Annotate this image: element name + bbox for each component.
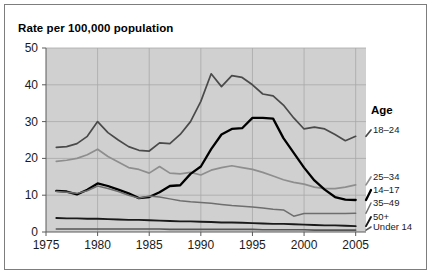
y-axis-tick-label: 50	[12, 41, 38, 55]
x-axis-tick-label: 1990	[176, 238, 226, 252]
legend-leader-25-34	[366, 177, 371, 185]
legend-leader-35-49	[366, 203, 371, 213]
y-axis-tick-label: 0	[12, 225, 38, 239]
legend-leader-18-24	[366, 130, 371, 136]
y-axis-tick-label: 40	[12, 78, 38, 92]
legend-item-18-24: 18–24	[373, 124, 399, 135]
y-axis-tick-label: 20	[12, 151, 38, 165]
x-axis-tick-label: 1980	[73, 238, 123, 252]
legend-leader-under-14	[366, 227, 371, 230]
legend-title: Age	[371, 104, 393, 116]
legend-item-14-17: 14–17	[373, 184, 399, 195]
line-chart-plot	[0, 0, 431, 274]
x-axis-tick-label: 1995	[227, 238, 277, 252]
legend-item-35-49: 35–49	[373, 197, 399, 208]
y-axis-tick-label: 10	[12, 188, 38, 202]
legend-leader-14-17	[366, 190, 371, 200]
x-axis-tick-label: 1975	[21, 238, 71, 252]
legend-item-under-14: Under 14	[373, 221, 412, 232]
legend-leader-50+	[366, 217, 371, 226]
x-axis-tick-label: 2005	[331, 238, 381, 252]
y-axis-tick-label: 30	[12, 115, 38, 129]
x-axis-tick-label: 1985	[124, 238, 174, 252]
x-axis-tick-label: 2000	[279, 238, 329, 252]
chart-figure: Rate per 100,000 population 010203040501…	[0, 0, 431, 274]
legend-item-25-34: 25–34	[373, 171, 399, 182]
